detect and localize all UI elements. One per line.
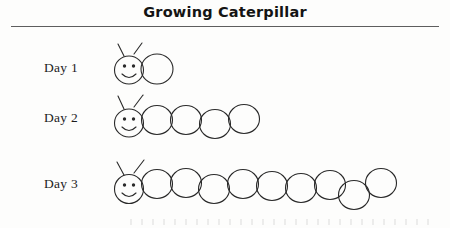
smile-icon <box>122 193 136 197</box>
body-segment <box>142 106 173 135</box>
smile-icon <box>122 127 136 131</box>
antenna-right-icon <box>134 95 143 107</box>
caterpillar-drawing-3 <box>110 158 430 220</box>
eye-left-icon <box>123 117 126 120</box>
eye-right-icon <box>132 183 135 186</box>
body-segment <box>228 170 259 199</box>
caterpillar-day-2 <box>110 92 310 150</box>
eye-right-icon <box>132 64 135 67</box>
caterpillar-day-3 <box>110 158 430 220</box>
body-segment <box>171 169 202 198</box>
page-title: Growing Caterpillar <box>0 4 450 20</box>
eye-left-icon <box>123 183 126 186</box>
body-segment <box>171 106 202 135</box>
body-segment <box>339 181 370 210</box>
worksheet-page: Growing Caterpillar Day 1 Day 2 <box>0 0 450 228</box>
body-segment <box>141 54 173 84</box>
caterpillar-head <box>115 56 144 84</box>
caterpillar-day-1 <box>110 42 220 98</box>
day-label-2: Day 2 <box>44 110 78 126</box>
body-segment <box>199 175 230 204</box>
caterpillar-drawing-1 <box>110 42 220 98</box>
eye-right-icon <box>132 117 135 120</box>
antenna-left-icon <box>118 44 124 56</box>
smile-icon <box>122 74 136 78</box>
body-segment <box>229 105 260 134</box>
caterpillar-drawing-2 <box>110 92 310 150</box>
body-segment <box>142 170 173 199</box>
body-segment <box>257 172 288 201</box>
day-row-2: Day 2 <box>0 92 450 152</box>
body-segment <box>200 110 231 139</box>
body-segment <box>315 171 346 200</box>
day-label-3: Day 3 <box>44 176 78 192</box>
title-divider <box>11 26 439 27</box>
caterpillar-head <box>115 175 144 204</box>
cut-off-text-artifact <box>130 219 430 225</box>
day-label-1: Day 1 <box>44 60 78 76</box>
antenna-right-icon <box>134 160 144 173</box>
eye-left-icon <box>123 64 126 67</box>
antenna-left-icon <box>118 96 124 109</box>
antenna-left-icon <box>117 162 124 175</box>
caterpillar-head <box>115 109 144 137</box>
body-segment <box>366 169 397 198</box>
antenna-right-icon <box>134 43 142 54</box>
body-segment <box>286 174 317 203</box>
day-row-3: Day 3 <box>0 158 450 218</box>
